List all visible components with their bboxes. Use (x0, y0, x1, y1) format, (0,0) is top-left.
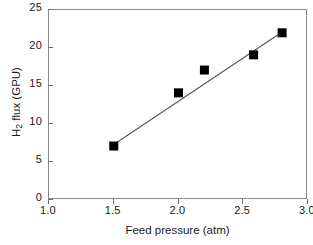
x-tick-label: 1.0 (28, 204, 68, 216)
chart-figure: 1.01.52.02.53.0 0510152025 Feed pressure… (0, 0, 313, 245)
x-tick-label: 3.0 (287, 204, 313, 216)
y-tick-mark (48, 123, 53, 124)
y-tick-mark (48, 47, 53, 48)
x-tick-label: 2.5 (222, 204, 262, 216)
trend-line (114, 32, 282, 144)
y-tick-label: 0 (8, 191, 42, 203)
y-tick-label: 25 (8, 1, 42, 13)
data-point-marker (109, 142, 118, 151)
data-point-marker (249, 50, 258, 59)
plot-canvas (49, 10, 308, 200)
y-tick-mark (48, 9, 53, 10)
x-axis-title: Feed pressure (atm) (48, 224, 307, 236)
y-axis-title: H2 flux (GPU) (10, 22, 24, 182)
x-tick-label: 1.5 (93, 204, 133, 216)
plot-area (48, 9, 307, 199)
data-point-marker (278, 28, 287, 37)
data-point-marker (200, 66, 209, 75)
y-tick-mark (48, 85, 53, 86)
data-point-marker (174, 88, 183, 97)
y-tick-mark (48, 199, 53, 200)
x-tick-label: 2.0 (158, 204, 198, 216)
y-tick-mark (48, 161, 53, 162)
trend-line-segment (114, 32, 282, 144)
